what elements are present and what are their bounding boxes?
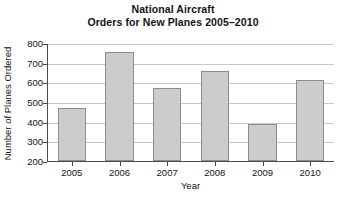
y-tick-label: 600	[16, 78, 43, 88]
bar-slot	[296, 44, 325, 161]
x-tick-label: 2008	[195, 167, 235, 178]
bar-series	[48, 44, 334, 161]
y-axis-title-text: Number of Planes Ordered	[3, 46, 14, 160]
y-tick-label: 400	[16, 118, 43, 128]
y-axis-title: Number of Planes Ordered	[1, 44, 15, 162]
y-tick-label: 500	[16, 98, 43, 108]
x-tick-label: 2009	[243, 167, 283, 178]
x-axis-tick-marks	[47, 162, 334, 166]
bar-slot	[248, 44, 277, 161]
bar-chart-figure: National Aircraft Orders for New Planes …	[0, 0, 346, 197]
x-axis-title: Year	[47, 180, 334, 191]
x-tick-mark	[72, 162, 73, 166]
y-axis-tick-labels: 200300400500600700800	[16, 44, 43, 162]
y-tick-label: 300	[16, 137, 43, 147]
bar[interactable]	[58, 108, 87, 161]
bar-slot	[201, 44, 230, 161]
x-axis-tick-labels: 200520062007200820092010	[47, 167, 334, 179]
x-tick-label: 2010	[290, 167, 330, 178]
x-tick-mark	[215, 162, 216, 166]
y-tick-label: 800	[16, 39, 43, 49]
bar[interactable]	[248, 124, 277, 161]
x-tick-mark	[167, 162, 168, 166]
plot-area	[47, 44, 334, 162]
bar-slot	[58, 44, 87, 161]
x-tick-mark	[120, 162, 121, 166]
y-tick-label: 700	[16, 59, 43, 69]
bar[interactable]	[296, 80, 325, 161]
bar[interactable]	[105, 52, 134, 161]
chart-title: National Aircraft Orders for New Planes …	[0, 3, 346, 29]
x-tick-label: 2007	[147, 167, 187, 178]
bar-slot	[105, 44, 134, 161]
bar[interactable]	[201, 71, 230, 161]
chart-title-line-1: National Aircraft	[0, 3, 346, 16]
x-tick-label: 2005	[52, 167, 92, 178]
x-tick-label: 2006	[100, 167, 140, 178]
x-tick-mark	[310, 162, 311, 166]
bar[interactable]	[153, 88, 182, 161]
x-tick-mark	[263, 162, 264, 166]
chart-title-line-2: Orders for New Planes 2005–2010	[0, 16, 346, 29]
bar-slot	[153, 44, 182, 161]
y-tick-label: 200	[16, 157, 43, 167]
